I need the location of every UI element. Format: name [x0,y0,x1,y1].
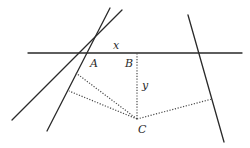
left-steep-line [47,8,110,131]
label-x: x [113,39,120,52]
label-y: y [141,79,149,92]
right-line [188,15,224,142]
dotted-c-to-steep [76,73,137,119]
label-b: B [124,57,133,70]
label-a: A [89,57,98,70]
dotted-c-to-shallow [69,91,137,119]
dotted-c-to-right [137,99,212,119]
label-c: C [138,123,147,136]
left-shallow-line [12,10,122,120]
geometry-diagram: x A B y C [0,0,250,148]
